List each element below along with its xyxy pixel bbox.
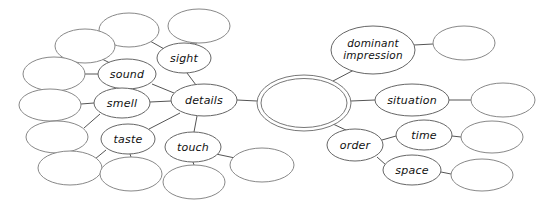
node-taste[interactable]: taste — [101, 124, 155, 154]
node-space-label: space — [395, 164, 428, 177]
edge-details-to-taste — [149, 113, 180, 129]
node-situation[interactable]: situation — [375, 84, 449, 116]
concept-map-diagram: detailssightsoundsmelltastetouchdominant… — [0, 0, 548, 200]
edge-space-to-blank-space — [441, 172, 451, 174]
edge-taste-to-blank-taste-lower — [95, 150, 106, 159]
node-sound-label: sound — [110, 68, 145, 81]
node-touch[interactable]: touch — [165, 132, 221, 162]
edge-smell-to-blank-taste-left — [84, 114, 100, 128]
node-smell[interactable]: smell — [94, 88, 150, 118]
node-time-label: time — [411, 129, 437, 142]
node-blank-taste-below[interactable] — [100, 157, 162, 191]
edge-center-topic-to-situation — [351, 100, 375, 101]
node-blank-taste-left[interactable] — [26, 121, 88, 153]
node-details[interactable]: details — [171, 84, 237, 116]
edge-dominant-impression-to-blank-dominant — [414, 44, 433, 45]
edge-details-to-sight — [187, 73, 196, 85]
node-space[interactable]: space — [383, 155, 441, 185]
center-topic-inner-ring — [261, 79, 347, 128]
edge-smell-to-blank-smell-left — [81, 103, 94, 104]
node-touch-label: touch — [177, 141, 209, 154]
edge-center-topic-to-dominant-impression — [333, 70, 354, 81]
node-dominant-impression-label: dominantimpression — [343, 37, 403, 61]
node-blank-space[interactable] — [451, 159, 513, 191]
node-blank-dominant[interactable] — [433, 26, 495, 60]
node-blank-touch-below[interactable] — [163, 165, 225, 199]
node-smell-label: smell — [107, 97, 137, 110]
node-blank-time[interactable] — [461, 121, 523, 153]
center-node-layer — [257, 75, 351, 131]
node-sound[interactable]: sound — [98, 59, 156, 89]
node-order-label: order — [340, 139, 372, 152]
node-center-topic[interactable] — [257, 75, 351, 131]
concept-map-canvas: detailssightsoundsmelltastetouchdominant… — [0, 0, 548, 200]
node-details-label: details — [185, 94, 223, 107]
node-blank-touch-right[interactable] — [230, 148, 294, 182]
node-blank-sight-right[interactable] — [168, 9, 230, 43]
node-blank-situation[interactable] — [471, 83, 535, 117]
node-sight-label: sight — [170, 52, 199, 65]
edge-center-topic-to-details — [237, 100, 257, 101]
edge-order-to-time — [382, 136, 396, 140]
edge-order-to-space — [377, 157, 386, 165]
node-order[interactable]: order — [327, 129, 383, 161]
node-sight[interactable]: sight — [157, 43, 211, 73]
node-time[interactable]: time — [396, 120, 452, 150]
node-blank-smell-left[interactable] — [19, 89, 81, 121]
node-dominant-impression[interactable]: dominantimpression — [331, 26, 415, 74]
edge-details-to-sound — [152, 84, 174, 93]
edge-details-to-smell — [150, 101, 171, 102]
node-situation-label: situation — [387, 94, 437, 107]
node-blank-taste-lower[interactable] — [38, 151, 102, 185]
edge-touch-to-blank-touch-right — [216, 154, 235, 158]
node-blank-sound-left[interactable] — [23, 57, 85, 91]
edge-time-to-blank-time — [452, 136, 461, 137]
edge-details-to-touch — [194, 116, 197, 132]
node-taste-label: taste — [114, 133, 143, 146]
